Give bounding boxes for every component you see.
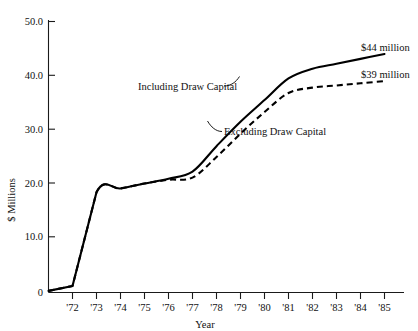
x-tick-label-85: '85 xyxy=(378,302,390,313)
y-tick-label-10: 10.0 xyxy=(25,231,43,242)
x-tick-label-81: '81 xyxy=(282,302,294,313)
y-tick-label-0: 0 xyxy=(38,287,43,298)
x-tick-label-80: '80 xyxy=(258,302,270,313)
x-tick-label-84: '84 xyxy=(354,302,367,313)
end-label-including: $44 million xyxy=(361,42,410,53)
y-tick-label-50: 50.0 xyxy=(25,16,43,27)
x-tick-label-78: '78 xyxy=(210,302,222,313)
y-tick-label-30: 30.0 xyxy=(25,124,43,135)
y-tick-label-20: 20.0 xyxy=(25,178,43,189)
x-tick-label-79: '79 xyxy=(234,302,246,313)
annotation-including-draw-capital: Including Draw Capital xyxy=(138,81,237,92)
x-tick-label-74: '74 xyxy=(114,302,127,313)
y-tick-label-40: 40.0 xyxy=(25,70,43,81)
x-tick-label-83: '83 xyxy=(330,302,342,313)
x-axis-title: Year xyxy=(195,319,215,330)
x-tick-label-77: '77 xyxy=(186,302,198,313)
line-chart: 50.0 40.0 30.0 20.0 10.0 0 $ Millions '7… xyxy=(0,0,418,331)
x-tick-label-75: '75 xyxy=(138,302,150,313)
annotation-excluding-draw-capital: Excluding Draw Capital xyxy=(224,126,326,137)
end-label-dashed: $39 million xyxy=(361,69,410,80)
leader-line-excluding xyxy=(208,121,223,132)
x-tick-label-72: '72 xyxy=(66,302,78,313)
x-tick-label-82: '82 xyxy=(306,302,318,313)
chart-container: 50.0 40.0 30.0 20.0 10.0 0 $ Millions '7… xyxy=(0,0,418,331)
y-axis-title: $ Millions xyxy=(6,178,17,221)
x-tick-label-76: '76 xyxy=(162,302,174,313)
x-tick-label-73: '73 xyxy=(90,302,102,313)
series-line-excluding-draw-capital xyxy=(49,81,385,291)
